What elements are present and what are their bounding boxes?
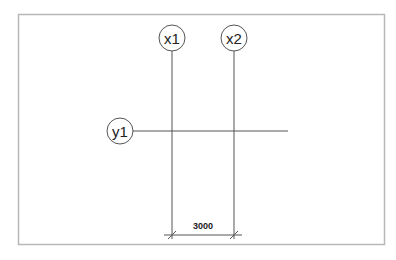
grid-line-x2[interactable]: x2 — [221, 25, 247, 239]
dimension-value: 3000 — [193, 221, 213, 231]
grid-label-x2: x2 — [226, 30, 242, 47]
grid-line-x1[interactable]: x1 — [159, 25, 185, 239]
dimension-x1-x2[interactable]: 3000 — [164, 221, 242, 239]
grid-line-y1[interactable]: y1 — [107, 118, 288, 144]
grid-diagram: x1 x2 y1 3000 — [0, 0, 396, 260]
grid-label-y1: y1 — [112, 123, 128, 140]
drawing-frame — [19, 15, 385, 245]
grid-label-x1: x1 — [164, 30, 180, 47]
